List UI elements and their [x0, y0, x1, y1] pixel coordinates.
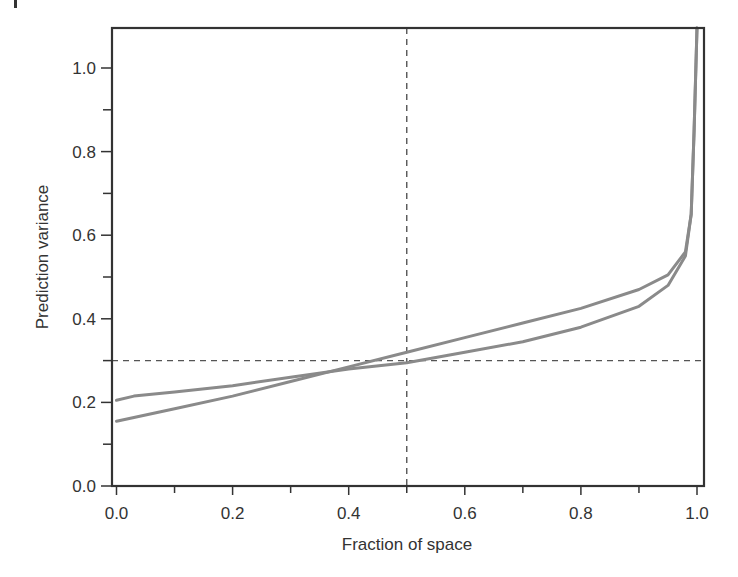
y-tick-label: 0.8: [72, 143, 96, 162]
reference-lines: [112, 28, 704, 486]
x-tick-label: 0.6: [453, 504, 477, 523]
y-tick-label: 0.4: [72, 310, 96, 329]
y-tick-label: 0.6: [72, 226, 96, 245]
y-axis-title: Prediction variance: [33, 185, 52, 330]
x-tick-label: 0.2: [221, 504, 245, 523]
x-tick-label: 1.0: [685, 504, 709, 523]
x-tick-label: 0.4: [337, 504, 361, 523]
y-tick-label: 0.0: [72, 477, 96, 496]
x-axis-title: Fraction of space: [342, 535, 472, 554]
plot-frame: [112, 28, 704, 486]
prediction-variance-chart: 0.00.20.40.60.81.0 0.00.20.40.60.81.0 Fr…: [0, 0, 738, 577]
y-tick-label: 1.0: [72, 59, 96, 78]
y-axis: 0.00.20.40.60.81.0: [72, 59, 112, 496]
x-tick-label: 0.8: [569, 504, 593, 523]
y-tick-label: 0.2: [72, 393, 96, 412]
x-axis: 0.00.20.40.60.81.0: [105, 486, 709, 523]
x-tick-label: 0.0: [105, 504, 129, 523]
